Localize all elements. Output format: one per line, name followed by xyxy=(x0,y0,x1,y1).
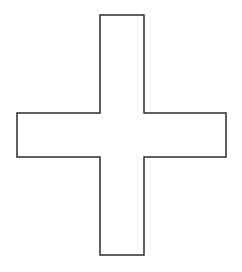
plus-cross-outline xyxy=(17,15,226,255)
cross-shape xyxy=(0,0,242,272)
diagram-canvas xyxy=(0,0,242,272)
